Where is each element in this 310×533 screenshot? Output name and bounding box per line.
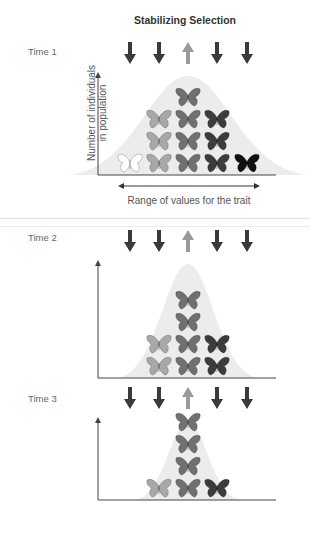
time-label: Time 3 (28, 393, 57, 404)
butterfly-icon (175, 334, 201, 354)
selection-against-arrow-icon (241, 42, 253, 64)
butterfly-icon (146, 334, 172, 354)
selection-against-arrow-icon (153, 387, 165, 409)
butterfly-icon (175, 131, 201, 151)
butterfly-icon (175, 290, 201, 310)
butterfly-icon (175, 87, 201, 107)
selection-against-arrow-icon (153, 42, 165, 64)
butterfly-icon (146, 356, 172, 376)
selection-favored-arrow-icon (182, 387, 194, 409)
y-axis-label: Number of individualsin population (86, 63, 108, 163)
x-axis-label: Range of values for the trait (110, 195, 268, 206)
selection-against-arrow-icon (124, 387, 136, 409)
selection-against-arrow-icon (124, 230, 136, 252)
divider-line (0, 218, 310, 219)
diagram-title: Stabilizing Selection (0, 14, 310, 26)
butterfly-icon (175, 153, 201, 173)
selection-against-arrow-icon (124, 42, 136, 64)
selection-against-arrow-icon (153, 230, 165, 252)
divider-line (0, 226, 310, 227)
selection-favored-arrow-icon (182, 42, 194, 64)
selection-against-arrow-icon (211, 387, 223, 409)
butterfly-icon (175, 412, 201, 432)
butterfly-icon (175, 434, 201, 454)
selection-against-arrow-icon (241, 387, 253, 409)
butterfly-icon (175, 109, 201, 129)
butterfly-icon (204, 131, 230, 151)
butterfly-icon (204, 153, 230, 173)
butterfly-icon (204, 334, 230, 354)
butterfly-icon (117, 153, 143, 173)
selection-favored-arrow-icon (182, 230, 194, 252)
butterfly-icon (234, 153, 260, 173)
panel-time-1: Time 1 (0, 40, 310, 190)
selection-against-arrow-icon (241, 230, 253, 252)
butterfly-icon (146, 131, 172, 151)
butterfly-icon (146, 153, 172, 173)
butterfly-icon (146, 478, 172, 498)
butterfly-icon (204, 356, 230, 376)
butterfly-icon (146, 109, 172, 129)
butterfly-icon (175, 356, 201, 376)
time-label: Time 1 (28, 46, 57, 57)
selection-against-arrow-icon (211, 42, 223, 64)
trait-range-arrow-icon (118, 182, 260, 190)
butterfly-icon (204, 109, 230, 129)
butterfly-icon (175, 456, 201, 476)
butterfly-icon (175, 312, 201, 332)
time-label: Time 2 (28, 232, 57, 243)
selection-against-arrow-icon (211, 230, 223, 252)
panel-time-2: Time 2 (0, 228, 310, 378)
butterfly-icon (204, 478, 230, 498)
panel-time-3: Time 3 (0, 385, 310, 533)
butterfly-icon (175, 478, 201, 498)
